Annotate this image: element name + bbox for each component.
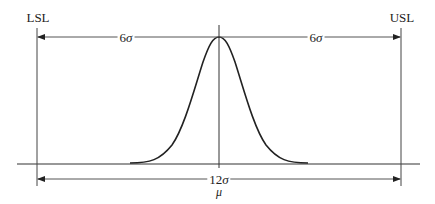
left-six-sigma-label: 6σ [118,31,135,44]
sigma-symbol: σ [222,172,228,187]
right-six-sigma-label: 6σ [308,31,325,44]
six-sigma-diagram: LSL USL 6σ 6σ 12σ μ [0,0,435,204]
sigma-symbol: σ [126,30,132,45]
lsl-label: LSL [24,11,51,24]
usl-label: USL [388,11,417,24]
mean-label: μ [214,186,224,198]
sigma-symbol: σ [316,30,322,45]
twelve-sigma-label: 12σ [207,173,230,186]
